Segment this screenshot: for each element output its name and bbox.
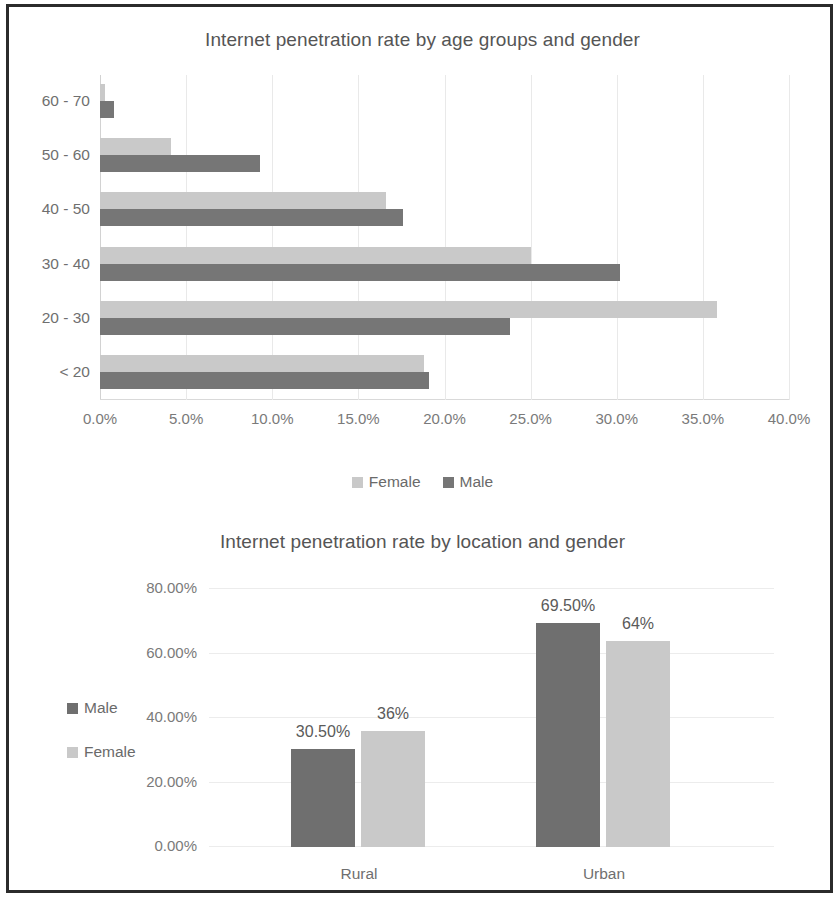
gridline — [209, 588, 774, 589]
xtick-label: 25.0% — [509, 410, 552, 427]
location-chart-legend: MaleFemale — [67, 699, 136, 787]
gridline — [789, 75, 790, 400]
legend-label: Female — [84, 743, 136, 761]
legend-swatch-icon — [67, 703, 78, 714]
ytick-label: 80.00% — [146, 579, 197, 596]
ytick-label: 20.00% — [146, 773, 197, 790]
location-gender-chart: Internet penetration rate by location an… — [9, 507, 833, 893]
legend-swatch-icon — [443, 477, 454, 488]
ytick-label: 40.00% — [146, 708, 197, 725]
gridline — [186, 75, 187, 400]
xtick-label: 10.0% — [251, 410, 294, 427]
bar-value-label: 69.50% — [541, 597, 595, 615]
bar-female — [100, 355, 424, 372]
category-label: Rural — [340, 865, 377, 883]
legend-item[interactable]: Female — [352, 473, 421, 491]
gridline — [531, 75, 532, 400]
gridline — [272, 75, 273, 400]
category-label: 60 - 70 — [42, 92, 90, 110]
category-label: 30 - 40 — [42, 255, 90, 273]
xtick-label: 35.0% — [682, 410, 725, 427]
xtick-label: 30.0% — [595, 410, 638, 427]
legend-item[interactable]: Male — [443, 473, 494, 491]
location-chart-plot-area — [209, 589, 774, 847]
bar-female — [361, 731, 425, 847]
bar-male — [291, 749, 355, 847]
gridline — [445, 75, 446, 400]
category-label: 20 - 30 — [42, 309, 90, 327]
xtick-label: 40.0% — [768, 410, 811, 427]
ytick-label: 0.00% — [154, 837, 197, 854]
legend-item[interactable]: Female — [67, 743, 136, 761]
category-label: Urban — [583, 865, 625, 883]
xtick-label: 20.0% — [423, 410, 466, 427]
ytick-label: 60.00% — [146, 644, 197, 661]
bar-male — [100, 155, 260, 172]
legend-label: Male — [460, 473, 494, 491]
bar-female — [100, 301, 717, 318]
gridline — [617, 75, 618, 400]
age-chart-plot-area — [100, 75, 789, 400]
bar-male — [100, 372, 429, 389]
bar-value-label: 30.50% — [296, 723, 350, 741]
xtick-label: 0.0% — [83, 410, 117, 427]
category-label: < 20 — [59, 363, 90, 381]
bar-male — [100, 318, 510, 335]
value-axis-line — [100, 75, 101, 400]
xtick-label: 5.0% — [169, 410, 203, 427]
legend-item[interactable]: Male — [67, 699, 136, 717]
gridline — [358, 75, 359, 400]
bar-female — [100, 192, 386, 209]
gridline — [209, 717, 774, 718]
gridline — [703, 75, 704, 400]
age-chart-legend: FemaleMale — [9, 473, 833, 491]
bar-male — [100, 209, 403, 226]
figure-canvas: Internet penetration rate by age groups … — [9, 7, 830, 890]
age-chart-title: Internet penetration rate by age groups … — [9, 29, 833, 51]
bar-female — [100, 84, 105, 101]
bar-male — [100, 101, 114, 118]
category-label: 40 - 50 — [42, 200, 90, 218]
xtick-label: 15.0% — [337, 410, 380, 427]
bar-female — [100, 247, 531, 264]
legend-swatch-icon — [352, 477, 363, 488]
legend-label: Female — [369, 473, 421, 491]
bar-male — [100, 264, 620, 281]
bar-value-label: 36% — [377, 705, 409, 723]
legend-label: Male — [84, 699, 118, 717]
gridline — [209, 653, 774, 654]
bar-male — [536, 623, 600, 847]
age-gender-chart: Internet penetration rate by age groups … — [9, 7, 833, 507]
bar-female — [606, 641, 670, 847]
bar-female — [100, 138, 171, 155]
figure-frame: Internet penetration rate by age groups … — [6, 4, 833, 893]
category-label: 50 - 60 — [42, 146, 90, 164]
location-chart-title: Internet penetration rate by location an… — [9, 531, 833, 553]
bar-value-label: 64% — [622, 615, 654, 633]
legend-swatch-icon — [67, 747, 78, 758]
